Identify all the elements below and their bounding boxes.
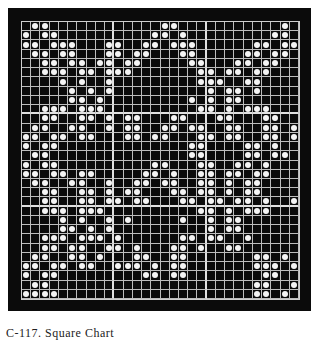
dot-icon [189, 198, 195, 204]
grid-cell [142, 40, 151, 49]
grid-cell [170, 225, 179, 234]
grid-cell [170, 262, 179, 271]
grid-cell [271, 216, 280, 225]
grid-cell [96, 114, 105, 123]
dot-icon [254, 42, 260, 48]
dot-icon [263, 106, 269, 112]
grid-cell [96, 59, 105, 68]
grid-cell [124, 244, 133, 253]
dot-icon [42, 282, 48, 288]
dot-icon [291, 42, 297, 48]
grid-cell [179, 142, 188, 151]
grid-cell [234, 124, 243, 133]
grid-cell [31, 31, 40, 40]
grid-cell [179, 133, 188, 142]
grid-cell [87, 105, 96, 114]
grid-cell [225, 161, 234, 170]
grid-cell [179, 262, 188, 271]
grid-cell [133, 68, 142, 77]
dot-icon [198, 143, 204, 149]
grid-cell [225, 31, 234, 40]
grid-cell [77, 244, 86, 253]
dot-icon [60, 217, 66, 223]
grid-cell [105, 68, 114, 77]
grid-cell [124, 50, 133, 59]
grid-cell [179, 197, 188, 206]
grid-cell [253, 105, 262, 114]
grid-cell [290, 96, 299, 105]
grid-cell [262, 225, 271, 234]
grid-cell [50, 59, 59, 68]
grid-cell [161, 59, 170, 68]
grid-cell [244, 253, 253, 262]
grid-cell [50, 197, 59, 206]
dot-icon [51, 69, 57, 75]
dot-icon [97, 97, 103, 103]
dot-icon [152, 263, 158, 269]
dot-icon [180, 263, 186, 269]
dot-icon [134, 115, 140, 121]
grid-cell [253, 114, 262, 123]
grid-cell [31, 290, 40, 299]
grid-cell [133, 40, 142, 49]
grid-cell [271, 234, 280, 243]
grid-cell [290, 124, 299, 133]
dot-icon [125, 263, 131, 269]
grid-cell [114, 234, 123, 243]
grid-cell [244, 87, 253, 96]
grid-cell [151, 87, 160, 96]
grid-cell [197, 216, 206, 225]
dot-icon [51, 162, 57, 168]
grid-cell [271, 253, 280, 262]
grid-cell [188, 197, 197, 206]
grid-cell [124, 234, 133, 243]
dot-icon [79, 263, 85, 269]
dot-icon [32, 171, 38, 177]
grid-cell [253, 68, 262, 77]
grid-cell [77, 188, 86, 197]
dot-icon [106, 245, 112, 251]
grid-cell [142, 290, 151, 299]
grid-cell [31, 142, 40, 151]
grid-cell [77, 271, 86, 280]
dot-icon [79, 189, 85, 195]
dot-icon [42, 180, 48, 186]
grid-cell [216, 197, 225, 206]
dot-icon [171, 42, 177, 48]
dot-icon [254, 208, 260, 214]
grid-cell [244, 170, 253, 179]
grid-cell [281, 244, 290, 253]
grid-cell [207, 40, 216, 49]
grid-cell [225, 179, 234, 188]
grid-cell [290, 133, 299, 142]
grid-cell [77, 225, 86, 234]
grid-cell [188, 114, 197, 123]
grid-cell [170, 170, 179, 179]
grid-cell [207, 31, 216, 40]
grid-cell [96, 188, 105, 197]
grid-cell [281, 225, 290, 234]
grid-cell [271, 151, 280, 160]
dot-icon [97, 208, 103, 214]
grid-cell [234, 244, 243, 253]
grid-cell [22, 114, 31, 123]
grid-cell [197, 179, 206, 188]
grid-cell [22, 40, 31, 49]
grid-cell [170, 161, 179, 170]
grid-cell [22, 133, 31, 142]
grid-cell [216, 77, 225, 86]
grid-cell [179, 225, 188, 234]
grid-cell [262, 59, 271, 68]
grid-cell [271, 105, 280, 114]
dot-icon [198, 134, 204, 140]
grid-cell [142, 170, 151, 179]
dot-icon [198, 69, 204, 75]
grid-cell [234, 207, 243, 216]
dot-icon [60, 208, 66, 214]
dot-icon [189, 235, 195, 241]
grid-cell [114, 114, 123, 123]
dot-icon [32, 152, 38, 158]
grid-cell [22, 151, 31, 160]
grid-cell [207, 50, 216, 59]
grid-cell [133, 290, 142, 299]
